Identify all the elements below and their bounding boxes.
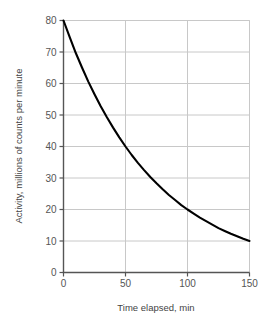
y-tick-label: 40 bbox=[45, 141, 57, 152]
y-tick-labels: 01020304050607080 bbox=[45, 15, 57, 278]
y-tick-label: 60 bbox=[45, 78, 57, 89]
y-tick-label: 30 bbox=[45, 173, 57, 184]
x-tick-label: 50 bbox=[120, 278, 132, 289]
activity-decay-chart: 01020304050607080 050100150 Time elapsed… bbox=[0, 0, 271, 327]
x-tick-label: 0 bbox=[61, 278, 67, 289]
x-axis-title: Time elapsed, min bbox=[117, 302, 194, 313]
y-tick-label: 80 bbox=[45, 15, 57, 26]
y-tick-label: 70 bbox=[45, 47, 57, 58]
y-tick-label: 20 bbox=[45, 204, 57, 215]
x-tick-label: 150 bbox=[241, 278, 258, 289]
chart-figure: 01020304050607080 050100150 Time elapsed… bbox=[0, 0, 271, 327]
y-axis-title: Activity, millions of counts per minute bbox=[13, 68, 24, 223]
y-tick-label: 0 bbox=[51, 267, 57, 278]
x-tick-label: 100 bbox=[179, 278, 196, 289]
y-tick-label: 50 bbox=[45, 110, 57, 121]
y-tick-label: 10 bbox=[45, 236, 57, 247]
chart-background bbox=[0, 0, 271, 327]
